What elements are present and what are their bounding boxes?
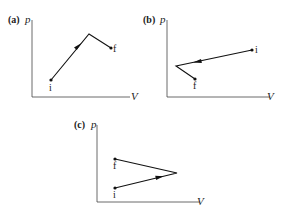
panel-a-process-path xyxy=(51,34,111,80)
panel-b-label: (b) xyxy=(143,14,155,26)
panel-c-process-path xyxy=(115,159,177,188)
panel-c: (c) p V i f xyxy=(74,118,205,207)
panel-a-y-axis-label: p xyxy=(24,13,31,25)
panel-c-label-f: f xyxy=(113,160,117,171)
panel-b-process-path xyxy=(176,50,252,79)
panel-a-axes xyxy=(32,20,130,97)
panel-a-label-f: f xyxy=(113,43,117,54)
panel-b-axes xyxy=(167,20,270,97)
panel-b-y-axis-label: p xyxy=(159,13,166,25)
panel-b-point-i xyxy=(250,48,253,51)
panel-b-x-axis-label: V xyxy=(267,90,275,102)
panel-a-label-i: i xyxy=(49,82,52,93)
panel-b-arrow-icon xyxy=(193,59,202,63)
panel-a-x-axis-label: V xyxy=(131,90,139,102)
panel-b: (b) p V i f xyxy=(143,13,275,102)
panel-c-arrow-icon xyxy=(155,176,163,180)
panel-c-x-axis-label: V xyxy=(197,195,205,207)
pv-diagram-figure: (a) p V i f (b) p V i f (c) p V i f xyxy=(0,0,287,216)
panel-a: (a) p V i f xyxy=(8,13,139,102)
panel-c-y-axis-label: p xyxy=(90,118,97,130)
panel-a-label: (a) xyxy=(8,14,20,26)
panel-b-label-f: f xyxy=(193,80,197,91)
panel-c-label-i: i xyxy=(113,189,116,200)
panel-c-label: (c) xyxy=(74,119,85,131)
panel-a-arrow-icon xyxy=(74,43,82,50)
panel-b-label-i: i xyxy=(255,44,258,55)
